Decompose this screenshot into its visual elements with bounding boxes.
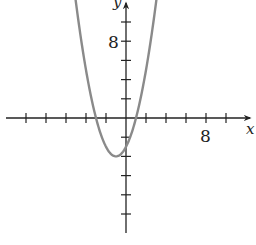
y-axis-label: y [112, 0, 122, 11]
x-tick-label-8: 8 [200, 126, 211, 146]
x-axis-label: x [246, 120, 255, 138]
coordinate-plane: 8 8 x y [0, 0, 256, 245]
parabola-curve [74, 0, 158, 156]
y-tick-label-8: 8 [108, 32, 119, 52]
